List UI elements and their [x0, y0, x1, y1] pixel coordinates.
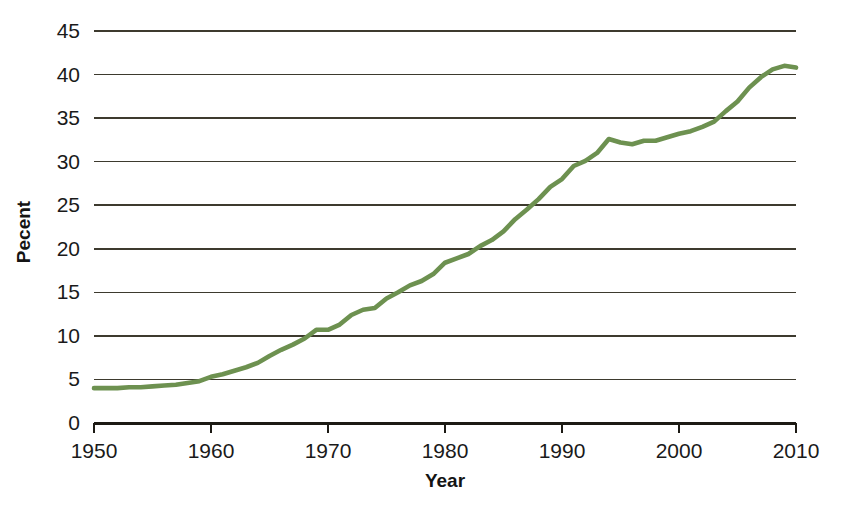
y-tick-label-35: 35	[57, 106, 80, 129]
gridlines-group	[94, 31, 796, 379]
x-axis-title: Year	[425, 470, 466, 491]
y-axis-title: Pecent	[13, 200, 34, 263]
data-line-Percent	[94, 66, 796, 388]
y-tick-label-15: 15	[57, 280, 80, 303]
y-tick-label-25: 25	[57, 193, 80, 216]
y-tick-label-5: 5	[68, 367, 80, 390]
data-series-group	[94, 66, 796, 388]
x-tick-label-2010: 2010	[773, 439, 820, 462]
y-tick-label-10: 10	[57, 324, 80, 347]
x-tick-label-1970: 1970	[305, 439, 352, 462]
y-axis-tick-labels-group: 051015202530354045	[57, 19, 80, 434]
x-tick-label-1990: 1990	[539, 439, 586, 462]
chart-container: 051015202530354045 195019601970198019902…	[0, 0, 847, 513]
y-tick-label-40: 40	[57, 63, 80, 86]
x-axis-tick-labels-group: 1950196019701980199020002010	[71, 439, 820, 462]
y-tick-label-45: 45	[57, 19, 80, 42]
x-tick-label-1950: 1950	[71, 439, 118, 462]
x-tick-label-1960: 1960	[188, 439, 235, 462]
y-tick-label-30: 30	[57, 150, 80, 173]
line-chart: 051015202530354045 195019601970198019902…	[0, 0, 847, 513]
y-tick-label-0: 0	[68, 411, 80, 434]
x-tick-label-1980: 1980	[422, 439, 469, 462]
x-tick-label-2000: 2000	[656, 439, 703, 462]
y-tick-label-20: 20	[57, 237, 80, 260]
